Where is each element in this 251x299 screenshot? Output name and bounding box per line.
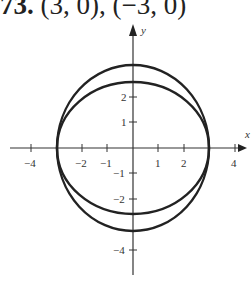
y-axis-label: y	[140, 24, 146, 36]
x-axis-label: x	[244, 128, 250, 140]
x-tick: 4	[231, 157, 237, 169]
y-tick: −2	[113, 193, 125, 205]
x-axis-arrow-icon	[238, 144, 247, 152]
y-tick: 2	[121, 91, 127, 103]
y-tick: −1	[113, 167, 125, 179]
y-tick: 1	[121, 116, 127, 128]
x-tick: −1	[100, 157, 112, 169]
x-tick: 2	[181, 157, 187, 169]
x-tick: −4	[24, 157, 36, 169]
graph: y x −4 −2 −1 1 2 4 2 1 −1 −2 −4	[0, 0, 251, 299]
y-tick: −4	[113, 244, 125, 256]
y-axis-arrow-icon	[129, 24, 137, 36]
x-tick: −2	[75, 157, 87, 169]
x-tick: 1	[155, 157, 161, 169]
